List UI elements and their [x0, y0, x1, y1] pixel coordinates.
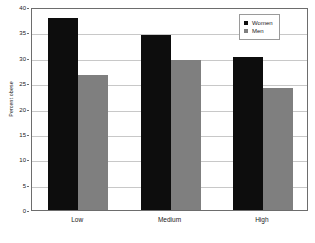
y-tick-label: 5 — [23, 183, 26, 189]
y-tick-label: 0 — [23, 208, 26, 214]
legend-item-men[interactable]: Men — [244, 27, 273, 35]
y-tick-label: 25 — [19, 81, 26, 87]
legend-swatch-men-icon — [244, 29, 248, 33]
y-tick-mark — [27, 110, 30, 111]
legend-label-men: Men — [252, 28, 264, 34]
y-axis-tick-labels: 0510152025303540 — [0, 0, 29, 243]
y-tick-mark — [27, 135, 30, 136]
x-tick-label-medium: Medium — [158, 216, 181, 223]
y-tick-label: 30 — [19, 56, 26, 62]
y-tick-mark — [27, 33, 30, 34]
bar-chart: Percent obese 0510152025303540 Women Men… — [0, 0, 315, 243]
legend-item-women[interactable]: Women — [244, 19, 273, 27]
y-tick-label: 40 — [19, 5, 26, 11]
y-tick-mark — [27, 8, 30, 9]
bar-high-women — [233, 57, 263, 210]
bar-high-men — [263, 88, 293, 210]
x-axis-tick-labels: LowMediumHigh — [31, 216, 308, 230]
y-tick-label: 15 — [19, 132, 26, 138]
legend-swatch-women-icon — [244, 21, 248, 25]
y-tick-label: 35 — [19, 30, 26, 36]
y-tick-label: 10 — [19, 157, 26, 163]
bar-low-women — [48, 18, 78, 210]
legend-label-women: Women — [252, 20, 273, 26]
bar-low-men — [78, 75, 108, 211]
y-tick-mark — [27, 59, 30, 60]
legend: Women Men — [239, 14, 280, 40]
y-tick-mark — [27, 186, 30, 187]
y-tick-mark — [27, 211, 30, 212]
y-tick-mark — [27, 160, 30, 161]
bar-medium-women — [141, 35, 171, 210]
bar-medium-men — [171, 60, 201, 210]
y-tick-mark — [27, 84, 30, 85]
x-tick-label-high: High — [255, 216, 268, 223]
x-tick-label-low: Low — [71, 216, 83, 223]
y-tick-label: 20 — [19, 107, 26, 113]
